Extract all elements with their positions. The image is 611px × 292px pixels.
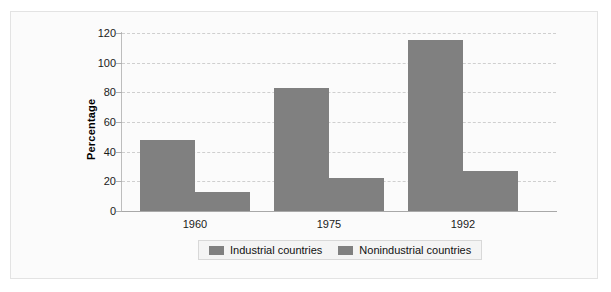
y-axis-title: Percentage	[72, 90, 88, 160]
bar-group	[122, 33, 556, 211]
bar-1960-industrial	[140, 140, 195, 211]
x-tick-label-1960: 1960	[165, 218, 225, 230]
legend-label-industrial: Industrial countries	[230, 244, 322, 256]
y-tick-label-0: 0	[76, 206, 116, 217]
legend-label-nonindustrial: Nonindustrial countries	[359, 244, 471, 256]
chart-figure: 120 100 80 60 40 20 0 Percentage 1960 19…	[0, 0, 611, 292]
bar-1960-nonindustrial	[195, 192, 250, 211]
y-tick-label-120: 120	[76, 28, 116, 39]
legend-entry-industrial: Industrial countries	[209, 244, 322, 256]
legend-swatch-icon-nonindustrial	[338, 246, 353, 255]
x-tick-label-1975: 1975	[299, 218, 359, 230]
legend-swatch-icon-industrial	[209, 246, 224, 255]
bar-1992-industrial	[408, 40, 463, 211]
y-axis-title-text: Percentage	[85, 99, 97, 160]
x-axis-line	[121, 211, 557, 212]
y-tick-label-20: 20	[76, 176, 116, 187]
bar-1975-nonindustrial	[329, 178, 384, 211]
x-tick-label-1992: 1992	[433, 218, 493, 230]
legend-entry-nonindustrial: Nonindustrial countries	[338, 244, 471, 256]
bar-1992-nonindustrial	[463, 171, 518, 211]
chart-legend: Industrial countries Nonindustrial count…	[198, 240, 482, 260]
y-tick-mark-0	[116, 211, 122, 212]
y-tick-label-100: 100	[76, 58, 116, 69]
bar-1975-industrial	[274, 88, 329, 211]
